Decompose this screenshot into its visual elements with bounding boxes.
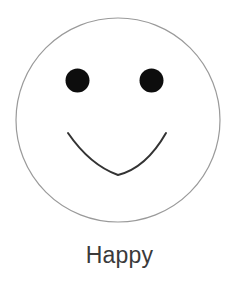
figure-caption: Happy — [0, 242, 239, 269]
left-eye — [66, 69, 90, 93]
face-outline — [16, 18, 220, 222]
smiley-face-icon — [0, 0, 239, 230]
right-eye — [140, 69, 164, 93]
